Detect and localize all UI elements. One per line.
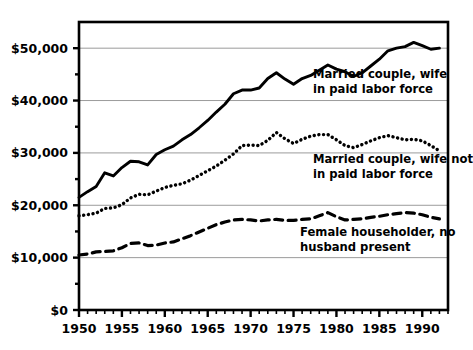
x-tick-label-1990: 1990	[405, 321, 440, 336]
annotation-married-wife-in-labor-force-line-1: in paid labor force	[313, 82, 433, 96]
x-tick-label-1955: 1955	[105, 321, 140, 336]
y-tick-label-50000: $50,000	[11, 41, 68, 56]
x-tick-label-1975: 1975	[276, 321, 311, 336]
line-chart: $0$10,000$20,000$30,000$40,000$50,000 19…	[0, 0, 473, 350]
annotation-female-householder-line-0: Female householder, no	[300, 225, 455, 239]
y-tick-label-20000: $20,000	[11, 198, 68, 213]
chart-container: $0$10,000$20,000$30,000$40,000$50,000 19…	[0, 0, 473, 350]
y-tick-label-30000: $30,000	[11, 145, 68, 160]
x-tick-label-1970: 1970	[233, 321, 268, 336]
annotation-married-wife-in-labor-force: Married couple, wifein paid labor force	[313, 67, 447, 96]
x-tick-label-1950: 1950	[62, 321, 97, 336]
annotation-married-wife-in-labor-force-line-0: Married couple, wife	[313, 67, 447, 81]
x-tick-label-1980: 1980	[319, 321, 354, 336]
y-tick-label-10000: $10,000	[11, 250, 68, 265]
x-tick-label-1985: 1985	[362, 321, 397, 336]
x-tick-label-1965: 1965	[190, 321, 225, 336]
annotation-married-wife-not-in-labor-force-line-1: in paid labor force	[313, 167, 433, 181]
annotation-married-wife-not-in-labor-force-line-0: Married couple, wife not	[313, 152, 473, 166]
x-axis-tick-labels: 195019551960196519701975198019851990	[62, 321, 440, 336]
y-tick-label-0: $0	[51, 303, 69, 318]
annotation-female-householder-line-1: husband present	[300, 240, 411, 254]
y-tick-label-40000: $40,000	[11, 93, 68, 108]
x-tick-label-1960: 1960	[147, 321, 182, 336]
